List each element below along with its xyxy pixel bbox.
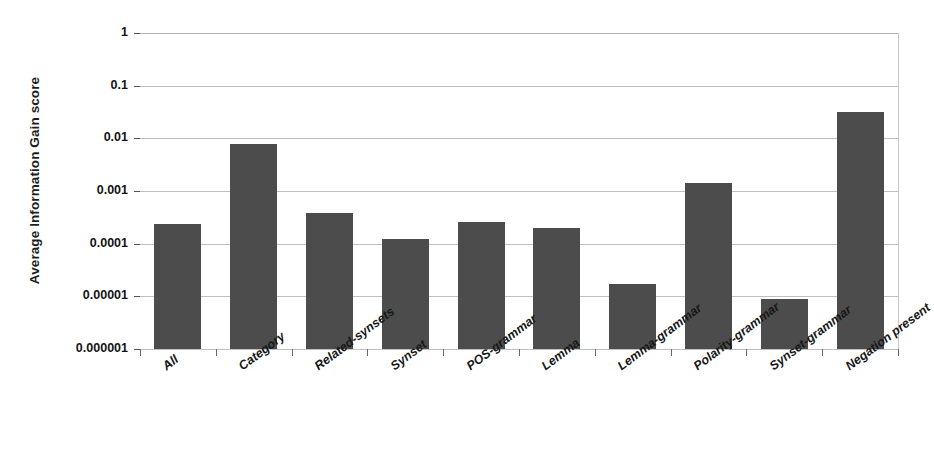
x-axis-tick-mark [140, 349, 141, 356]
gridline [140, 86, 898, 87]
y-axis-tick-label: 0.001 [0, 183, 128, 197]
x-axis-tick-mark [595, 349, 596, 356]
y-axis-tick-label: 0.000001 [0, 341, 128, 355]
y-axis-tick-mark [134, 33, 140, 34]
bar [230, 144, 277, 349]
bar [458, 222, 505, 349]
bar [154, 224, 201, 349]
bar [609, 284, 656, 349]
gridline [140, 138, 898, 139]
y-axis-tick-label: 0.0001 [0, 236, 128, 250]
y-axis-tick-mark [134, 244, 140, 245]
plot-area [140, 33, 899, 349]
y-axis-tick-mark [134, 191, 140, 192]
x-axis-tick-mark [443, 349, 444, 356]
bar [533, 228, 580, 349]
y-axis-tick-mark [134, 296, 140, 297]
x-axis-tick-mark [746, 349, 747, 356]
bar [761, 299, 808, 349]
information-gain-bar-chart: Average Information Gain score 10.10.010… [0, 0, 934, 476]
bar [837, 112, 884, 349]
y-axis-title: Average Information Gain score [22, 0, 48, 360]
y-axis-tick-label: 0.01 [0, 130, 128, 144]
x-axis-tick-label-text: All [160, 352, 181, 373]
y-axis-tick-mark [134, 86, 140, 87]
gridline [140, 33, 898, 34]
y-axis-tick-label: 1 [0, 25, 128, 39]
x-axis-tick-mark [671, 349, 672, 356]
x-axis-tick-mark [898, 349, 899, 356]
y-axis-tick-label: 0.1 [0, 78, 128, 92]
x-axis-tick-mark [292, 349, 293, 356]
y-axis-title-label: Average Information Gain score [28, 76, 43, 283]
y-axis-tick-label: 0.00001 [0, 288, 128, 302]
x-axis-tick-mark [822, 349, 823, 356]
bar [685, 183, 732, 349]
y-axis-tick-mark [134, 138, 140, 139]
x-axis-tick-mark [367, 349, 368, 356]
x-axis-tick-mark [216, 349, 217, 356]
x-axis-tick-mark [519, 349, 520, 356]
bar [306, 213, 353, 349]
bar [382, 239, 429, 349]
